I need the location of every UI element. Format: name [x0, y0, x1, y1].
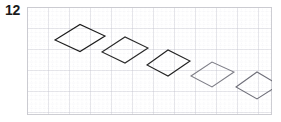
grid-panel — [27, 7, 272, 115]
graph-paper-grid — [27, 7, 272, 115]
problem-number-label: 12 — [5, 2, 20, 18]
figure-root: 12 — [0, 0, 281, 122]
